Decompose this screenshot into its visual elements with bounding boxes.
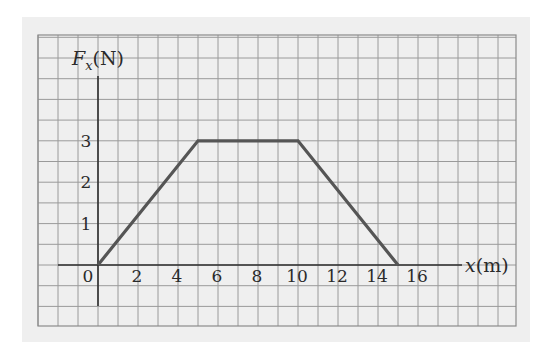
y-tick-label: 2 (81, 172, 92, 192)
x-tick-label: 14 (366, 266, 388, 286)
x-tick-label: 2 (132, 266, 143, 286)
y-tick-labels: 123 (81, 131, 92, 234)
origin-label: 0 (83, 266, 94, 286)
x-tick-label: 12 (326, 266, 348, 286)
force-position-chart: 246810121416 123 0 Fx(N) x(m) (0, 0, 546, 356)
x-tick-label: 4 (172, 266, 183, 286)
y-tick-label: 1 (81, 214, 92, 234)
x-tick-label: 16 (406, 266, 428, 286)
y-tick-label: 3 (81, 131, 92, 151)
y-axis-symbol: F (71, 47, 86, 69)
y-axis-title: Fx(N) (71, 47, 124, 73)
x-axis-unit: (m) (476, 254, 509, 276)
x-tick-label: 8 (252, 266, 263, 286)
x-axis-title: x(m) (465, 254, 509, 276)
y-axis-unit: (N) (93, 47, 124, 69)
grid (38, 35, 516, 326)
x-axis-symbol: x (465, 254, 476, 276)
x-tick-label: 10 (286, 266, 308, 286)
x-tick-labels: 246810121416 (132, 266, 428, 286)
x-tick-label: 6 (212, 266, 223, 286)
